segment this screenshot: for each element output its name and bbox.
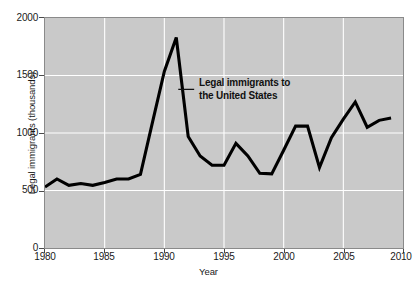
x-axis-title: Year xyxy=(0,267,417,277)
annotation-line-2: the United States xyxy=(199,90,329,103)
x-tick-label-1990: 1990 xyxy=(142,252,186,262)
x-tick-label-1980: 1980 xyxy=(23,252,67,262)
x-tick-label-2010: 2010 xyxy=(379,252,417,262)
x-tick-label-1995: 1995 xyxy=(202,252,246,262)
chart-figure: 2000 1500 1000 500 0 Legal immigrants (t… xyxy=(0,0,417,281)
plot-area xyxy=(44,17,404,249)
chart-canvas xyxy=(45,18,403,248)
x-tick-label-1985: 1985 xyxy=(82,252,126,262)
x-tick-label-2000: 2000 xyxy=(262,252,306,262)
annotation-line-1: Legal immigrants to xyxy=(199,77,290,88)
y-tick-label-2000: 2000 xyxy=(0,13,38,23)
x-tick-label-2005: 2005 xyxy=(322,252,366,262)
data-series-line xyxy=(45,38,391,188)
series-annotation: Legal immigrants to the United States xyxy=(199,77,329,102)
y-axis-title: Legal immigrants (thousands) xyxy=(27,48,37,218)
